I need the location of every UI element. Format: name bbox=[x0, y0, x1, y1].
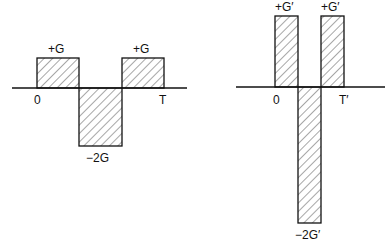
right-positive-lobe-1 bbox=[275, 16, 298, 87]
right-label-neg: −2G′ bbox=[295, 229, 320, 241]
left-positive-lobe-2 bbox=[122, 58, 164, 88]
right-positive-lobe-2 bbox=[321, 16, 344, 87]
left-positive-lobe-1 bbox=[37, 58, 79, 88]
right-label-pos2: +G′ bbox=[321, 1, 340, 13]
right-negative-lobe bbox=[298, 87, 321, 223]
left-label-neg: −2G bbox=[86, 152, 109, 164]
gradient-waveform-diagrams bbox=[0, 0, 389, 246]
left-label-zero: 0 bbox=[34, 94, 41, 106]
left-label-pos1: +G bbox=[48, 43, 64, 55]
right-waveform bbox=[236, 16, 385, 223]
right-label-zero: 0 bbox=[273, 94, 280, 106]
right-label-end: T′ bbox=[339, 94, 349, 106]
right-label-pos1: +G′ bbox=[275, 1, 294, 13]
left-label-pos2: +G bbox=[133, 43, 149, 55]
left-label-end: T bbox=[159, 94, 166, 106]
left-negative-lobe bbox=[79, 88, 122, 146]
